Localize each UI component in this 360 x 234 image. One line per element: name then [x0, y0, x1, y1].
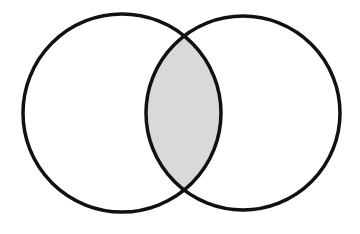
venn-diagram	[0, 0, 360, 234]
venn-diagram-svg	[0, 0, 360, 234]
